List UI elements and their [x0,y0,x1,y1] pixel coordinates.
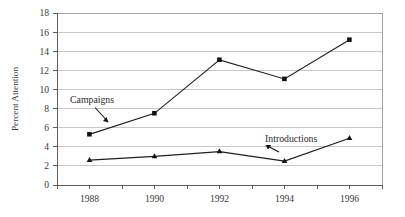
x-axis-tick-labels: 1988 1990 1992 1994 1996 [80,193,359,204]
y-axis-title: Percent Attention [10,67,20,131]
x-tick-label-1992: 1992 [210,193,229,204]
x-tick-label-1990: 1990 [145,193,164,204]
annotation-introductions-label: Introductions [265,133,317,144]
datapoint-campaigns-1988 [87,132,92,137]
y-tick-label-14: 14 [39,46,49,57]
y-tick-label-4: 4 [44,141,49,152]
datapoint-campaigns-1992 [217,57,222,62]
datapoint-campaigns-1996 [347,37,352,42]
x-tick-label-1988: 1988 [80,193,99,204]
y-tick-label-16: 16 [39,27,49,38]
chart-container: 18 16 14 12 10 8 6 4 2 0 1988 1990 1992 … [0,0,405,217]
y-tick-label-0: 0 [44,179,49,190]
datapoint-campaigns-1994 [282,77,287,82]
y-tick-label-18: 18 [39,7,49,18]
annotation-campaigns-label: Campaigns [70,94,114,105]
line-chart: 18 16 14 12 10 8 6 4 2 0 1988 1990 1992 … [0,0,405,217]
y-axis-ticks [53,13,57,185]
y-tick-label-10: 10 [39,84,49,95]
x-tick-label-1996: 1996 [340,193,359,204]
x-axis-ticks [57,185,382,189]
y-tick-label-8: 8 [44,103,49,114]
y-axis-tick-labels: 18 16 14 12 10 8 6 4 2 0 [39,7,49,190]
y-tick-label-6: 6 [44,122,49,133]
x-tick-label-1994: 1994 [275,193,294,204]
y-tick-label-2: 2 [44,160,49,171]
datapoint-campaigns-1990 [152,111,157,116]
y-tick-label-12: 12 [39,65,49,76]
